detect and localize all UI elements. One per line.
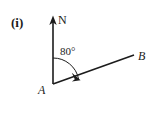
north-label: N: [58, 13, 67, 27]
bearing-diagram: (i) N 80° A B: [0, 0, 160, 124]
vertex-label-a: A: [37, 83, 46, 97]
ab-ray-line: [53, 55, 134, 84]
part-label: (i): [11, 15, 23, 30]
angle-label: 80°: [60, 45, 75, 57]
bearing-figure: (i) N 80° A B: [0, 0, 160, 124]
endpoint-label-b: B: [138, 49, 146, 63]
